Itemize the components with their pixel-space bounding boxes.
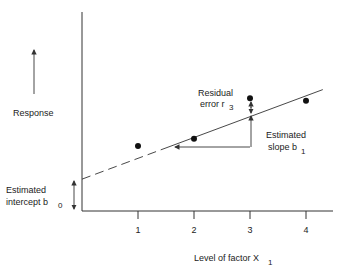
residual-label-line1: Residual xyxy=(198,88,233,98)
x-axis-label: Level of factor X xyxy=(194,253,259,263)
intercept-subscript: 0 xyxy=(58,201,63,210)
data-point xyxy=(135,143,141,149)
slope-subscript: 1 xyxy=(301,147,306,156)
data-point xyxy=(247,95,253,101)
x-axis-subscript: 1 xyxy=(268,258,273,267)
x-tick-label: 4 xyxy=(304,225,309,235)
intercept-label-line2: intercept b xyxy=(6,197,48,207)
x-tick-label: 2 xyxy=(192,225,197,235)
residual-label-line2: error r xyxy=(200,99,225,109)
x-ticks: 1234 xyxy=(136,211,309,235)
slope-label-line2: slope b xyxy=(268,142,297,152)
intercept-label-line1: Estimated xyxy=(6,185,46,195)
data-point xyxy=(191,136,197,142)
y-axis-label: Response xyxy=(13,108,54,118)
x-tick-label: 1 xyxy=(136,225,141,235)
fitted-line-extrapolated xyxy=(82,148,166,179)
data-point xyxy=(303,98,309,104)
regression-diagram: 1234 Response Residual error r 3 Estimat… xyxy=(0,0,343,277)
residual-subscript: 3 xyxy=(229,103,234,112)
slope-label-line1: Estimated xyxy=(266,130,306,140)
x-tick-label: 3 xyxy=(248,225,253,235)
